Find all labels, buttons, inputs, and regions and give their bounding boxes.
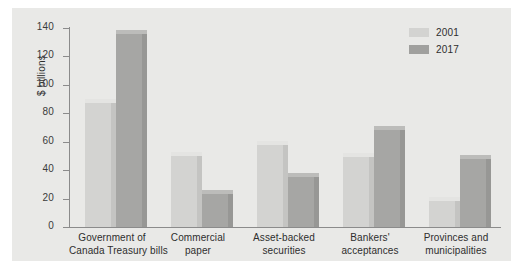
x-axis-label-line2: municipalities [413, 245, 499, 258]
bar-2017[interactable] [460, 159, 486, 227]
bar-face [460, 159, 486, 227]
bar-2017[interactable] [374, 130, 400, 227]
chart-legend: 2001 2017 [409, 24, 459, 58]
bar-face [116, 34, 142, 227]
y-tick-label: 140 [37, 21, 54, 32]
bar-2001[interactable] [257, 145, 283, 227]
bar-2017[interactable] [202, 194, 228, 227]
x-axis-label-line2: securities [241, 245, 327, 258]
x-axis-label: Bankers'acceptances [327, 232, 413, 257]
x-axis-label-line1: Asset-backed [241, 232, 327, 245]
x-axis-label-line2: Canada Treasury bills [69, 245, 155, 258]
y-tick-label: 0 [48, 220, 54, 231]
legend-label-2017: 2017 [436, 44, 459, 55]
legend-item-2001[interactable]: 2001 [409, 24, 459, 41]
bar-2017[interactable] [116, 34, 142, 227]
y-tick-label: 120 [37, 49, 54, 60]
x-axis-label: Provinces andmunicipalities [413, 232, 499, 257]
y-tick-mark [63, 227, 69, 228]
bar-group [343, 28, 405, 227]
x-axis-label: Asset-backedsecurities [241, 232, 327, 257]
x-axis-label-line1: Commercial [155, 232, 241, 245]
bar-cap [288, 173, 319, 177]
legend-label-2001: 2001 [436, 27, 459, 38]
bar-cap [343, 153, 374, 157]
bar-side [228, 194, 233, 227]
x-axis-label-line1: Government of [69, 232, 155, 245]
y-axis-title: $ billions [36, 55, 47, 96]
bar-2001[interactable] [343, 157, 369, 227]
x-axis-label-line2: acceptances [327, 245, 413, 258]
y-tick-0: 0 [63, 227, 69, 228]
bar-cap [85, 99, 116, 103]
bar-face [171, 156, 197, 227]
x-axis-line [69, 227, 501, 228]
y-tick-label: 100 [37, 78, 54, 89]
x-axis-label-line1: Provinces and [413, 232, 499, 245]
bar-side [142, 34, 147, 227]
bar-2017[interactable] [288, 177, 314, 227]
bar-2001[interactable] [171, 156, 197, 227]
legend-swatch-2017 [409, 45, 429, 54]
bar-face [257, 145, 283, 227]
x-axis-label: Government ofCanada Treasury bills [69, 232, 155, 257]
y-tick-label: 40 [42, 163, 54, 174]
bar-face [429, 201, 455, 227]
bar-face [343, 157, 369, 227]
bar-cap [374, 126, 405, 130]
bar-2001[interactable] [429, 201, 455, 227]
bar-side [400, 130, 405, 227]
bar-2001[interactable] [85, 103, 111, 227]
bar-cap [171, 152, 202, 156]
x-axis-label: Commercialpaper [155, 232, 241, 257]
bar-side [486, 159, 491, 227]
bar-cap [257, 141, 288, 145]
bar-group [171, 28, 233, 227]
y-tick-label: 80 [42, 106, 54, 117]
legend-item-2017[interactable]: 2017 [409, 41, 459, 58]
bar-side [314, 177, 319, 227]
bar-cap [460, 155, 491, 159]
bar-cap [429, 197, 460, 201]
bar-cap [202, 190, 233, 194]
y-tick-label: 20 [42, 192, 54, 203]
bar-cap [116, 30, 147, 34]
bar-group [85, 28, 147, 227]
legend-swatch-2001 [409, 28, 429, 37]
bar-group [257, 28, 319, 227]
bar-face [288, 177, 314, 227]
x-axis-label-line2: paper [155, 245, 241, 258]
chart-figure: $ billions 140120100806040200 Government… [0, 0, 523, 278]
bar-face [85, 103, 111, 227]
bar-face [202, 194, 228, 227]
y-tick-label: 60 [42, 135, 54, 146]
x-axis-label-line1: Bankers' [327, 232, 413, 245]
bar-face [374, 130, 400, 227]
